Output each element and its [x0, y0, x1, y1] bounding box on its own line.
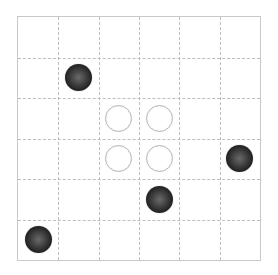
white-stone: [105, 105, 132, 132]
board-cell-r5-c5[interactable]: [220, 220, 260, 261]
board-cell-r5-c0[interactable]: [18, 220, 58, 261]
black-stone: [65, 64, 92, 91]
board-cell-r3-c4[interactable]: [179, 139, 219, 180]
board-cell-r1-c5[interactable]: [220, 58, 260, 99]
board-cell-r2-c5[interactable]: [220, 98, 260, 139]
board-cell-r0-c2[interactable]: [99, 17, 139, 58]
board-cell-r3-c0[interactable]: [18, 139, 58, 180]
white-stone: [105, 145, 132, 172]
board-cell-r5-c4[interactable]: [179, 220, 219, 261]
board-cell-r3-c1[interactable]: [58, 139, 98, 180]
board-cell-r2-c1[interactable]: [58, 98, 98, 139]
black-stone: [25, 226, 52, 253]
board-cell-r4-c1[interactable]: [58, 179, 98, 220]
board-cell-r4-c2[interactable]: [99, 179, 139, 220]
board-cell-r1-c2[interactable]: [99, 58, 139, 99]
board-cell-r1-c1[interactable]: [58, 58, 98, 99]
board-cell-r1-c4[interactable]: [179, 58, 219, 99]
board-cell-r0-c0[interactable]: [18, 17, 58, 58]
white-stone: [146, 105, 173, 132]
black-stone: [146, 186, 173, 213]
board-cell-r2-c0[interactable]: [18, 98, 58, 139]
board-cell-r1-c3[interactable]: [139, 58, 179, 99]
board-cell-r0-c4[interactable]: [179, 17, 219, 58]
board-cell-r2-c3[interactable]: [139, 98, 179, 139]
board-cell-r0-c3[interactable]: [139, 17, 179, 58]
board-cell-r0-c5[interactable]: [220, 17, 260, 58]
board-cell-r2-c4[interactable]: [179, 98, 219, 139]
board-cell-r3-c3[interactable]: [139, 139, 179, 180]
white-stone: [146, 145, 173, 172]
board-cell-r4-c5[interactable]: [220, 179, 260, 220]
board-cell-r4-c0[interactable]: [18, 179, 58, 220]
board-cell-r5-c1[interactable]: [58, 220, 98, 261]
board-cell-r2-c2[interactable]: [99, 98, 139, 139]
black-stone: [226, 145, 253, 172]
board-cell-r3-c5[interactable]: [220, 139, 260, 180]
board-cell-r5-c2[interactable]: [99, 220, 139, 261]
board-cell-r4-c3[interactable]: [139, 179, 179, 220]
board-cell-r0-c1[interactable]: [58, 17, 98, 58]
board-cell-r5-c3[interactable]: [139, 220, 179, 261]
game-board: [17, 16, 261, 261]
board-cell-r1-c0[interactable]: [18, 58, 58, 99]
board-cell-r4-c4[interactable]: [179, 179, 219, 220]
board-cell-r3-c2[interactable]: [99, 139, 139, 180]
